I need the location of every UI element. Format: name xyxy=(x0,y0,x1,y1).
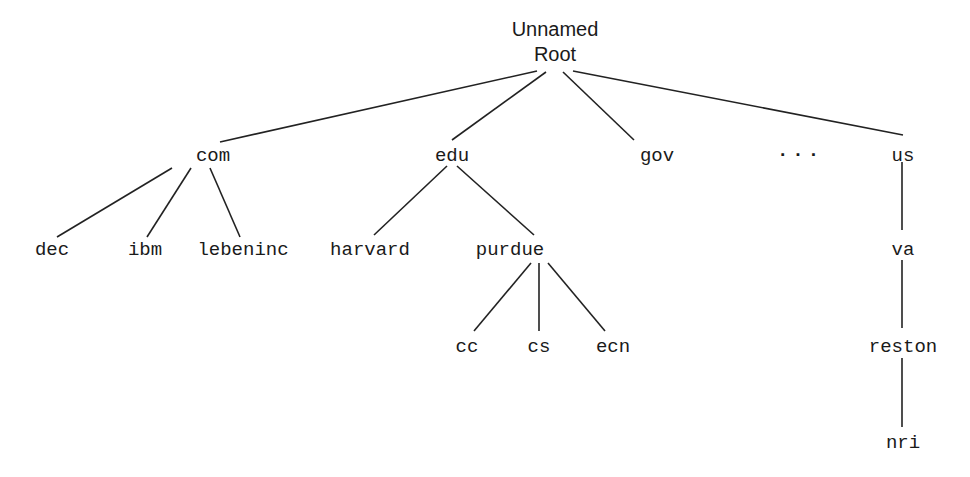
node-us: us xyxy=(892,145,915,167)
edge-com-dec xyxy=(57,168,172,237)
node-gov: gov xyxy=(640,145,674,167)
node-dec: dec xyxy=(35,239,69,261)
node-harvard: harvard xyxy=(330,239,410,261)
node-com: com xyxy=(196,145,230,167)
node-lebeninc: lebeninc xyxy=(197,239,288,261)
root-label-line1: Unnamed xyxy=(512,17,599,42)
root-label-line2: Root xyxy=(512,42,599,67)
node-edu: edu xyxy=(435,145,469,167)
node-ecn: ecn xyxy=(596,336,630,358)
node-ibm: ibm xyxy=(128,239,162,261)
node-va: va xyxy=(892,239,915,261)
edge-edu-harvard xyxy=(374,166,447,235)
edge-purdue-cc xyxy=(474,263,531,331)
node-ellipsis: ... xyxy=(777,140,823,162)
edge-purdue-ecn xyxy=(548,263,605,331)
edge-root-us xyxy=(573,71,903,135)
edge-root-com xyxy=(220,71,537,142)
edge-root-gov xyxy=(563,72,634,140)
node-nri: nri xyxy=(886,432,920,454)
edge-com-lebeninc xyxy=(210,168,240,237)
root-node: Unnamed Root xyxy=(512,17,599,67)
node-purdue: purdue xyxy=(476,239,544,261)
edge-edu-purdue xyxy=(457,166,534,235)
edge-root-edu xyxy=(452,72,546,140)
node-reston: reston xyxy=(869,336,937,358)
dns-tree-diagram: Unnamed Root comedugov...usdecibmlebenin… xyxy=(0,0,970,477)
node-cc: cc xyxy=(456,336,479,358)
node-cs: cs xyxy=(528,336,551,358)
